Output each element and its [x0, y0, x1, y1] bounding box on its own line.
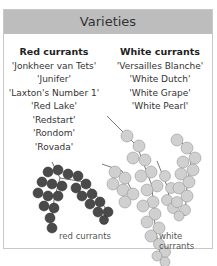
list-item: 'Laxton's Number 1' — [4, 87, 104, 101]
list-item: 'White Grape' — [108, 87, 212, 101]
list-item: 'Jonkheer van Tets' — [4, 60, 104, 74]
list-item: 'Versailles Blanche' — [108, 60, 212, 74]
white-currants-caption: white currants — [159, 231, 212, 251]
panel-title: Varieties — [4, 10, 212, 34]
list-item: 'Redstart' — [4, 114, 104, 128]
red-currants-caption: red currants — [59, 231, 111, 241]
list-item: 'Red Lake' — [4, 100, 104, 114]
list-item: 'White Dutch' — [108, 73, 212, 87]
list-item: 'Junifer' — [4, 73, 104, 87]
red-currants-column: Red currants 'Jonkheer van Tets' 'Junife… — [4, 45, 104, 154]
variety-list: 'Jonkheer van Tets' 'Junifer' 'Laxton's … — [4, 60, 104, 155]
list-item: 'Rondom' — [4, 127, 104, 141]
varieties-panel: Varieties Red currants 'Jonkheer van Tet… — [3, 9, 213, 249]
column-heading: White currants — [108, 45, 212, 59]
list-item: 'White Pearl' — [108, 100, 212, 114]
variety-list: 'Versailles Blanche' 'White Dutch' 'Whit… — [108, 60, 212, 114]
white-currants-column: White currants 'Versailles Blanche' 'Whi… — [108, 45, 212, 114]
list-item: 'Rovada' — [4, 141, 104, 155]
column-heading: Red currants — [4, 45, 104, 59]
